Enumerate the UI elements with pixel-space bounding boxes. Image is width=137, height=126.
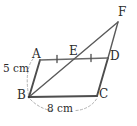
geometry-figure: A B C D E F 5 cm 8 cm [0,0,137,126]
vertex-label-c: C [99,88,108,100]
segment-bc [29,96,97,97]
dimension-arc-bc-right [76,99,97,111]
vertex-label-e: E [69,45,78,57]
vertex-label-d: D [110,50,120,62]
vertex-label-b: B [17,89,26,101]
vertex-dot-b [28,96,31,99]
vertex-markers [28,96,31,99]
dimension-label-ab: 5 cm [3,63,29,74]
dimension-label-bc: 8 cm [47,103,73,114]
vertex-label-a: A [32,48,41,60]
vertex-label-f: F [118,6,126,18]
